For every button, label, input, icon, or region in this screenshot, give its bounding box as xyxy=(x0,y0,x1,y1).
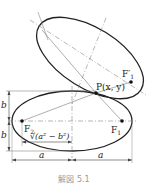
line-pf2 xyxy=(22,93,96,121)
dim-arrow xyxy=(12,159,16,162)
dim-arrow xyxy=(8,117,11,121)
label-f1-prime: F′1 xyxy=(122,69,134,80)
dim-arrow xyxy=(72,159,76,162)
dim-arrow xyxy=(68,159,72,162)
focus-f1 xyxy=(120,119,124,123)
focus-f1-prime xyxy=(129,80,133,84)
label-a-right: a xyxy=(98,150,103,160)
dim-arrow xyxy=(128,159,132,162)
dim-arrow xyxy=(8,147,11,151)
dim-arrow xyxy=(8,121,11,125)
figure-caption: 解図 5.1 xyxy=(58,174,89,184)
label-point-p: P(x, y) xyxy=(96,82,125,92)
label-b-top: b xyxy=(1,100,7,110)
label-focal-distance: √(a² − b²) xyxy=(30,132,69,141)
dim-arrow xyxy=(8,91,11,95)
rotated-ellipse xyxy=(23,1,148,115)
ellipse-diagram: P(x, y) F′1 F1 F2 b b √(a² − b²) a a 解図 … xyxy=(0,0,148,186)
label-b-bottom: b xyxy=(1,130,7,140)
label-a-left: a xyxy=(39,150,44,160)
dim-arrow xyxy=(22,141,26,144)
focus-f2 xyxy=(20,119,24,123)
label-f1: F1 xyxy=(111,125,121,136)
line-p-rotated xyxy=(42,30,96,93)
